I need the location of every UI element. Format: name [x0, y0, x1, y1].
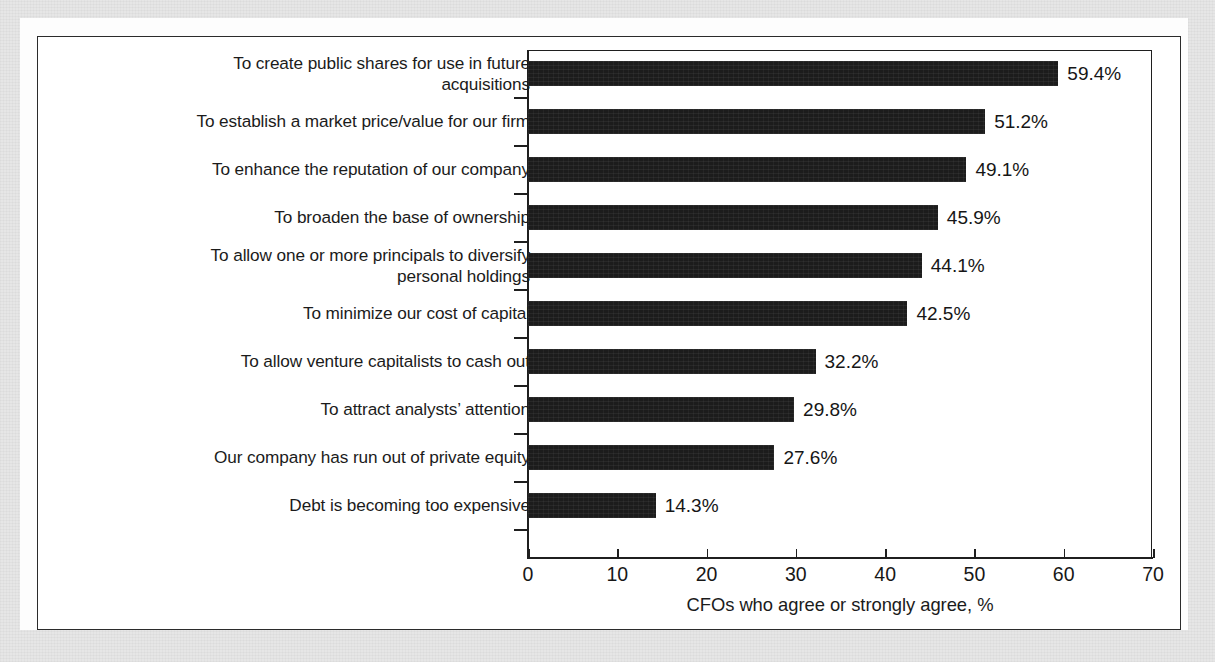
bar-row: To create public shares for use in futur… — [37, 50, 1181, 98]
bar-value-label: 59.4% — [1067, 61, 1121, 86]
category-label: To broaden the base of ownership — [60, 194, 530, 242]
bar — [528, 109, 985, 134]
x-axis-tick-label: 0 — [498, 563, 558, 586]
bar-row: To enhance the reputation of our company… — [37, 146, 1181, 194]
bar-row: To allow venture capitalists to cash out… — [37, 338, 1181, 386]
x-axis-tick-label: 20 — [677, 563, 737, 586]
bar-row: To establish a market price/value for ou… — [37, 98, 1181, 146]
x-axis-tick — [796, 549, 798, 558]
bar-value-label: 44.1% — [931, 253, 985, 278]
bar-row: Our company has run out of private equit… — [37, 434, 1181, 482]
bar-chart: To create public shares for use in futur… — [37, 36, 1181, 630]
x-axis-tick — [707, 549, 709, 558]
bar-rows: To create public shares for use in futur… — [37, 50, 1181, 558]
bar — [528, 157, 966, 182]
bar — [528, 253, 922, 278]
bar-value-label: 42.5% — [916, 301, 970, 326]
bar — [528, 445, 774, 470]
bar-row: Debt is becoming too expensive14.3% — [37, 482, 1181, 530]
bar — [528, 493, 656, 518]
bar-value-label: 45.9% — [947, 205, 1001, 230]
bar-value-label: 27.6% — [783, 445, 837, 470]
category-label: Our company has run out of private equit… — [60, 434, 530, 482]
category-label: To minimize our cost of capital — [60, 290, 530, 338]
x-axis-tick-label: 30 — [766, 563, 826, 586]
category-label: To attract analysts’ attention — [60, 386, 530, 434]
bar — [528, 61, 1058, 86]
bar-value-label: 29.8% — [803, 397, 857, 422]
x-axis-tick-label: 50 — [944, 563, 1004, 586]
bar-value-label: 49.1% — [975, 157, 1029, 182]
bar — [528, 397, 794, 422]
bar-row: To minimize our cost of capital42.5% — [37, 290, 1181, 338]
category-label: Debt is becoming too expensive — [60, 482, 530, 530]
x-axis-tick — [974, 549, 976, 558]
bar-value-label: 14.3% — [665, 493, 719, 518]
y-axis-tick — [514, 529, 528, 531]
x-axis-tick — [617, 549, 619, 558]
x-axis-tick — [885, 549, 887, 558]
category-label: To allow one or more principals to diver… — [60, 242, 530, 290]
x-axis-tick-label: 10 — [587, 563, 647, 586]
x-axis-tick — [1064, 549, 1066, 558]
x-axis-tick — [1153, 549, 1155, 558]
bar — [528, 349, 816, 374]
x-axis-tick-label: 40 — [855, 563, 915, 586]
bar-value-label: 32.2% — [825, 349, 879, 374]
bar-row: To attract analysts’ attention29.8% — [37, 386, 1181, 434]
x-axis-tick — [528, 549, 530, 558]
category-label: To establish a market price/value for ou… — [60, 98, 530, 146]
category-label: To create public shares for use in futur… — [60, 50, 530, 98]
x-axis-title: CFOs who agree or strongly agree, % — [527, 594, 1153, 616]
x-axis-tick-label: 70 — [1123, 563, 1183, 586]
category-label: To allow venture capitalists to cash out — [60, 338, 530, 386]
bar-row: To broaden the base of ownership45.9% — [37, 194, 1181, 242]
bar — [528, 301, 907, 326]
x-axis-tick-label: 60 — [1034, 563, 1094, 586]
category-label: To enhance the reputation of our company — [60, 146, 530, 194]
bar — [528, 205, 938, 230]
bar-row: To allow one or more principals to diver… — [37, 242, 1181, 290]
bar-value-label: 51.2% — [994, 109, 1048, 134]
